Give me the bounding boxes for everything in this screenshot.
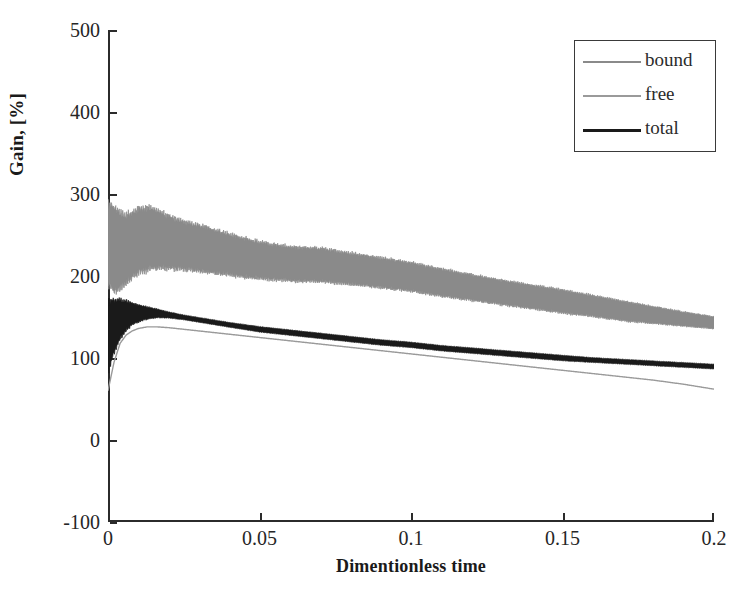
y-tick-label: 100 xyxy=(38,348,100,368)
y-tick-label: 400 xyxy=(38,102,100,122)
legend-entry-free: free xyxy=(583,83,711,109)
y-tick-label: 0 xyxy=(38,430,100,450)
x-axis-label: Dimentionless time xyxy=(108,556,714,577)
legend-swatch-free xyxy=(583,95,641,97)
legend-entry-bound: bound xyxy=(583,49,711,75)
legend-swatch-bound xyxy=(583,61,641,63)
series-free xyxy=(108,327,714,391)
x-tick-label: 0.2 xyxy=(674,528,754,548)
x-tick-label: 0.15 xyxy=(523,528,603,548)
y-tick-label: 300 xyxy=(38,184,100,204)
legend-label-total: total xyxy=(645,115,679,141)
x-tick-label: 0.1 xyxy=(371,528,451,548)
series-bound xyxy=(108,199,714,329)
y-axis-label: Gain, [%] xyxy=(6,36,30,176)
legend-entry-total: total xyxy=(583,117,711,143)
x-axis-tick-labels: 00.050.10.150.2 xyxy=(0,528,754,556)
figure: Gain, [%] Dimentionless time 50040030020… xyxy=(0,0,754,590)
legend-swatch-total xyxy=(583,129,641,132)
y-tick-mark xyxy=(110,522,117,524)
y-tick-label: 500 xyxy=(38,20,100,40)
legend-label-free: free xyxy=(645,81,675,107)
legend-label-bound: bound xyxy=(645,47,693,73)
y-tick-label: 200 xyxy=(38,266,100,286)
x-tick-label: 0 xyxy=(68,528,148,548)
legend: bound free total xyxy=(574,40,716,152)
x-tick-label: 0.05 xyxy=(220,528,300,548)
y-axis-tick-labels: 5004003002001000-100 xyxy=(34,0,100,590)
